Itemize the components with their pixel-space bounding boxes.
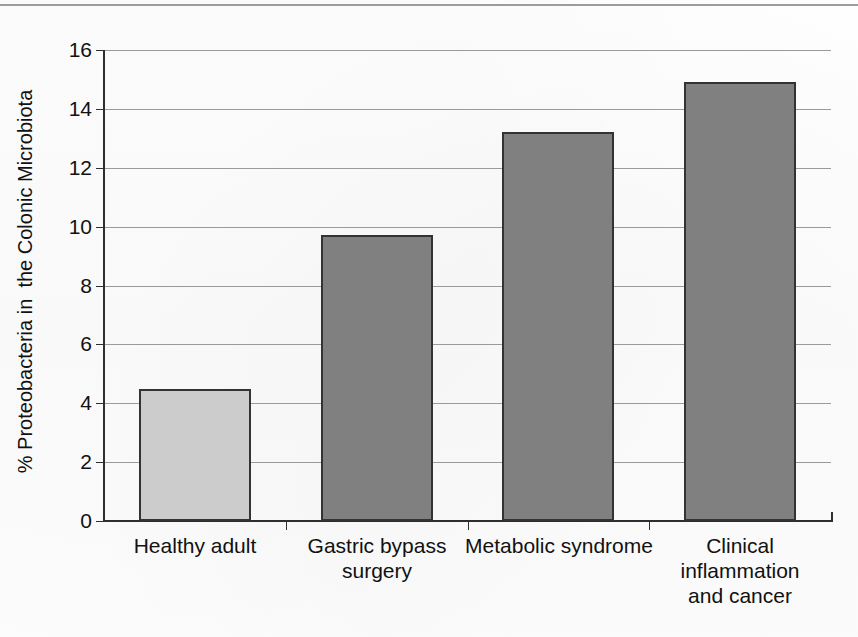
y-axis-tick-label: 4 [48,392,92,413]
y-axis-tick [96,109,105,110]
y-axis-tick [96,286,105,287]
x-axis-category-label-line: Metabolic syndrome [454,533,664,558]
x-axis-category-labels-group: Healthy adultGastric bypasssurgeryMetabo… [104,533,831,633]
y-axis-title-wrap: % Proteobacteria in the Colonic Microbio… [0,0,44,637]
y-axis-tick [96,50,105,51]
x-axis-category-label: Healthy adult [90,533,300,558]
x-axis-tick [649,521,650,530]
y-axis-tick-label: 0 [48,510,92,531]
y-axis-tick-label: 16 [48,39,92,60]
x-axis-category-label-line: and cancer [635,583,845,608]
x-axis-category-label-line: inflammation [635,558,845,583]
x-axis-category-label-line: Gastric bypass [272,533,482,558]
y-axis-tick-label: 12 [48,157,92,178]
y-axis-tick [96,462,105,463]
gridline [104,50,831,51]
x-axis-tick [468,521,469,530]
x-axis-category-label-line: Healthy adult [90,533,300,558]
y-axis-tick [96,227,105,228]
bar [321,235,433,521]
y-axis-tick [96,521,105,522]
y-axis-tick-label: 2 [48,451,92,472]
x-axis-right-end-tick [831,512,833,522]
x-axis-category-label-line: Clinical [635,533,845,558]
x-axis-category-label: Clinicalinflammationand cancer [635,533,845,608]
bar [684,82,796,521]
x-axis-category-label: Metabolic syndrome [454,533,664,558]
bar [502,132,614,521]
x-axis-tick [286,521,287,530]
y-axis-tick [96,168,105,169]
x-axis-category-label-line: surgery [272,558,482,583]
y-axis-tick-label: 6 [48,333,92,354]
y-axis-tick [96,403,105,404]
bar [139,389,251,521]
x-axis-category-label: Gastric bypasssurgery [272,533,482,583]
y-axis-tick-label: 14 [48,98,92,119]
bar-chart: 1614121086420 Healthy adultGastric bypas… [0,0,858,637]
y-axis-tick-labels-group: 1614121086420 [44,0,92,637]
y-axis-tick-label: 10 [48,216,92,237]
y-axis-title: % Proteobacteria in the Colonic Microbio… [14,47,37,517]
y-axis-tick [96,344,105,345]
y-axis-tick-label: 8 [48,275,92,296]
